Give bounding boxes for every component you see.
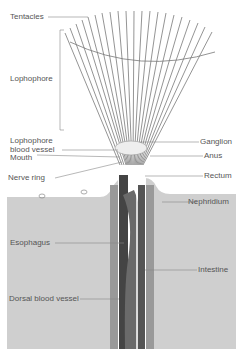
tube-wall-right [146, 185, 154, 349]
label-nerve-ring: Nerve ring [8, 173, 45, 183]
label-tentacles: Tentacles [10, 12, 44, 22]
label-ganglion: Ganglion [200, 137, 232, 147]
label-dorsal-blood-vessel: Dorsal blood vessel [9, 294, 79, 304]
label-rectum: Rectum [204, 171, 232, 181]
label-mouth: Mouth [10, 153, 32, 163]
intestine [138, 185, 145, 349]
label-esophagus: Esophagus [10, 238, 50, 248]
label-anus: Anus [204, 151, 222, 161]
phoronid-diagram: Tentacles Lophophore Lophophore blood ve… [0, 0, 244, 349]
label-intestine: Intestine [198, 265, 228, 275]
label-nephridium: Nephridium [188, 197, 229, 207]
sediment-left [7, 176, 124, 349]
label-lophophore: Lophophore [10, 74, 53, 84]
tube-wall-left [110, 185, 118, 349]
